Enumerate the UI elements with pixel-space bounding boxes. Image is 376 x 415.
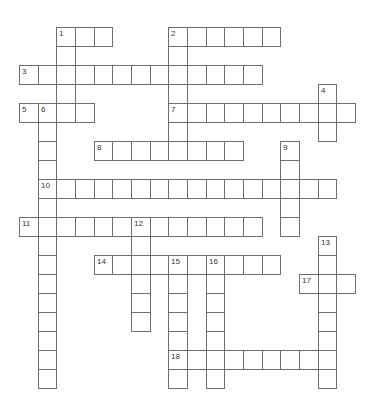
crossword-cell[interactable] [243,350,263,370]
crossword-cell[interactable] [206,350,225,370]
crossword-cell[interactable] [168,179,188,199]
crossword-cell[interactable] [299,350,319,370]
crossword-cell[interactable] [56,103,76,123]
crossword-cell[interactable] [131,293,151,313]
crossword-cell[interactable] [318,369,337,389]
crossword-cell[interactable] [299,179,319,199]
crossword-cell[interactable] [38,65,57,85]
crossword-cell[interactable] [131,312,151,332]
crossword-cell[interactable] [131,179,151,199]
crossword-cell[interactable] [206,103,225,123]
crossword-cell[interactable] [318,350,337,370]
crossword-cell[interactable] [168,312,188,332]
crossword-cell[interactable] [75,65,95,85]
crossword-cell[interactable] [38,274,57,294]
crossword-cell[interactable] [38,160,57,180]
crossword-cell[interactable] [94,217,113,237]
crossword-cell[interactable] [168,369,188,389]
crossword-cell[interactable]: 8 [94,141,113,161]
crossword-cell[interactable] [38,331,57,351]
crossword-cell[interactable] [38,255,57,275]
crossword-cell[interactable] [206,141,225,161]
crossword-cell[interactable]: 3 [19,65,39,85]
crossword-cell[interactable]: 12 [131,217,151,237]
crossword-cell[interactable] [38,312,57,332]
crossword-cell[interactable] [187,217,207,237]
crossword-cell[interactable] [112,141,132,161]
crossword-cell[interactable] [150,217,169,237]
crossword-cell[interactable]: 7 [168,103,188,123]
crossword-cell[interactable] [243,65,263,85]
crossword-cell[interactable] [318,293,337,313]
crossword-cell[interactable]: 2 [168,27,188,47]
crossword-cell[interactable]: 16 [206,255,225,275]
crossword-cell[interactable] [243,217,263,237]
crossword-cell[interactable] [318,274,337,294]
crossword-cell[interactable] [131,236,151,256]
crossword-cell[interactable]: 10 [38,179,57,199]
crossword-cell[interactable] [318,255,337,275]
crossword-cell[interactable] [206,293,225,313]
crossword-cell[interactable] [168,141,188,161]
crossword-cell[interactable] [243,27,263,47]
crossword-cell[interactable] [38,217,57,237]
crossword-cell[interactable] [224,103,244,123]
crossword-cell[interactable] [168,293,188,313]
crossword-cell[interactable] [168,46,188,66]
crossword-cell[interactable]: 14 [94,255,113,275]
crossword-cell[interactable] [206,179,225,199]
crossword-cell[interactable] [75,179,95,199]
crossword-cell[interactable] [187,350,207,370]
crossword-cell[interactable] [112,179,132,199]
crossword-cell[interactable] [243,179,263,199]
crossword-cell[interactable]: 15 [168,255,188,275]
crossword-cell[interactable] [280,103,300,123]
crossword-cell[interactable] [224,350,244,370]
crossword-cell[interactable] [94,179,113,199]
crossword-cell[interactable] [150,255,169,275]
crossword-cell[interactable] [131,255,151,275]
crossword-cell[interactable] [206,217,225,237]
crossword-cell[interactable] [262,103,281,123]
crossword-cell[interactable] [38,198,57,218]
crossword-cell[interactable] [38,293,57,313]
crossword-cell[interactable] [38,141,57,161]
crossword-cell[interactable] [187,179,207,199]
crossword-cell[interactable] [206,27,225,47]
crossword-cell[interactable] [224,27,244,47]
crossword-cell[interactable] [206,274,225,294]
crossword-cell[interactable] [336,103,356,123]
crossword-cell[interactable] [206,312,225,332]
crossword-cell[interactable] [150,65,169,85]
crossword-cell[interactable] [280,179,300,199]
crossword-cell[interactable] [187,65,207,85]
crossword-cell[interactable] [56,217,76,237]
crossword-cell[interactable]: 1 [56,27,76,47]
crossword-cell[interactable]: 17 [299,274,319,294]
crossword-cell[interactable] [280,198,300,218]
crossword-cell[interactable] [280,350,300,370]
crossword-cell[interactable] [38,122,57,142]
crossword-cell[interactable] [206,369,225,389]
crossword-cell[interactable] [187,255,207,275]
crossword-cell[interactable] [243,255,263,275]
crossword-cell[interactable] [224,65,244,85]
crossword-cell[interactable] [112,255,132,275]
crossword-cell[interactable] [206,65,225,85]
crossword-cell[interactable] [318,122,337,142]
crossword-cell[interactable] [262,350,281,370]
crossword-cell[interactable] [262,27,281,47]
crossword-cell[interactable] [318,331,337,351]
crossword-cell[interactable] [224,217,244,237]
crossword-cell[interactable] [112,65,132,85]
crossword-cell[interactable] [56,46,76,66]
crossword-cell[interactable]: 5 [19,103,39,123]
crossword-cell[interactable] [56,84,76,104]
crossword-cell[interactable] [168,331,188,351]
crossword-cell[interactable] [318,312,337,332]
crossword-cell[interactable] [131,141,151,161]
crossword-cell[interactable] [168,274,188,294]
crossword-cell[interactable] [299,103,319,123]
crossword-cell[interactable] [56,65,76,85]
crossword-cell[interactable] [224,255,244,275]
